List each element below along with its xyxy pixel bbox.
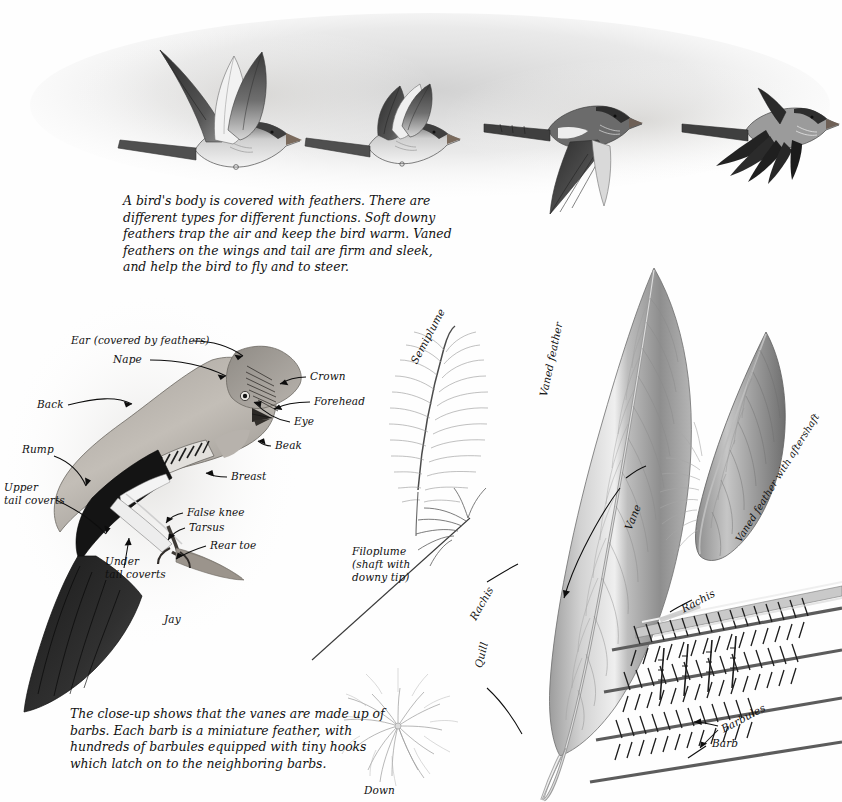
label-nape: Nape <box>113 353 142 366</box>
label-beak: Beak <box>275 439 302 452</box>
bottom-caption: The close-up shows that the vanes are ma… <box>70 706 390 772</box>
label-eye: Eye <box>294 415 314 428</box>
label-vaned-feather: Vaned feather <box>537 321 565 398</box>
label-under-tail-coverts: Under tail coverts <box>105 555 175 581</box>
label-rachis-closeup: Rachis <box>679 587 717 615</box>
label-breast: Breast <box>231 470 266 483</box>
label-back: Back <box>37 398 64 411</box>
vaned-feather-large <box>542 268 691 800</box>
semiplume-feather <box>389 326 488 536</box>
label-barbules: Barbules <box>719 701 768 735</box>
label-rear-toe: Rear toe <box>210 539 256 552</box>
flying-bird-3 <box>484 106 643 214</box>
flying-bird-1 <box>118 50 302 169</box>
vaned-feather-aftershaft <box>660 332 785 561</box>
flying-bird-2 <box>305 84 461 166</box>
label-rump: Rump <box>22 443 54 456</box>
label-tarsus: Tarsus <box>189 521 225 534</box>
label-jay: Jay <box>164 613 181 626</box>
label-forehead: Forehead <box>314 395 365 408</box>
label-down: Down <box>364 784 395 797</box>
label-crown: Crown <box>310 370 346 383</box>
label-upper-tail-coverts: Upper tail coverts <box>4 481 70 507</box>
label-quill: Quill <box>472 641 491 669</box>
label-semiplume: Semiplume <box>408 306 448 366</box>
label-false-knee: False knee <box>187 506 245 519</box>
label-vaned-feather-with-aftershaft: Vaned feather with aftershaft <box>733 412 822 545</box>
label-ear: Ear (covered by feathers) <box>71 334 210 347</box>
artwork-layer <box>0 0 842 802</box>
flying-bird-4 <box>682 88 840 184</box>
top-caption: A bird's body is covered with feathers. … <box>123 193 456 276</box>
barb-closeup-illustration <box>590 582 842 782</box>
label-vane: Vane <box>622 503 644 532</box>
label-rachis-main: Rachis <box>467 584 496 622</box>
plate-page: A bird's body is covered with feathers. … <box>0 0 842 802</box>
label-barb: Barb <box>712 737 738 750</box>
label-filoplume: Filoplume (shaft with downy tip) <box>352 545 410 583</box>
